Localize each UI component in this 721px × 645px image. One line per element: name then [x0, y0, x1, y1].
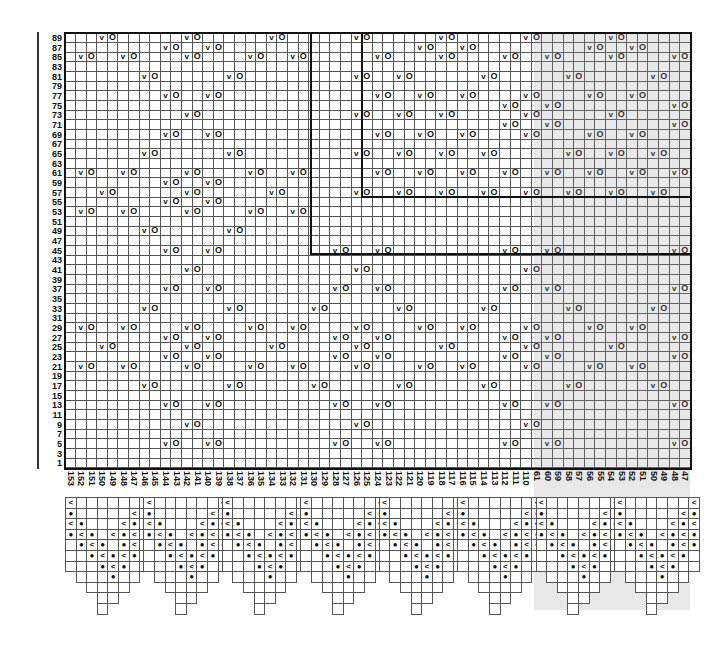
stitch-cell	[606, 458, 617, 468]
stitch-cell	[415, 217, 426, 227]
stitch-cell	[160, 236, 171, 246]
stitch-cell	[139, 313, 150, 323]
stitch-cell	[65, 333, 76, 343]
stitch-cell	[330, 420, 341, 430]
stitch-cell	[425, 439, 436, 449]
stitch-cell: O	[171, 333, 182, 343]
stitch-cell	[616, 304, 627, 314]
stitch-cell	[107, 43, 118, 53]
stitch-cell	[182, 429, 193, 439]
stitch-cell	[298, 149, 309, 159]
stitch-cell: v	[648, 381, 659, 391]
stitch-cell	[489, 323, 500, 333]
stitch-cell	[383, 139, 394, 149]
stitch-cell	[288, 410, 299, 420]
stitch-cell	[277, 139, 288, 149]
row-label: 39	[42, 275, 62, 285]
stitch-cell	[637, 226, 648, 236]
stitch-cell	[489, 81, 500, 91]
stitch-cell	[213, 72, 224, 82]
stitch-cell	[341, 313, 352, 323]
stitch-cell	[553, 72, 564, 82]
stitch-cell	[584, 333, 595, 343]
stitch-cell	[256, 342, 267, 352]
stitch-cell	[107, 439, 118, 449]
stitch-cell	[298, 72, 309, 82]
stitch-cell	[394, 420, 405, 430]
stitch-cell	[415, 159, 426, 169]
column-label: 152	[76, 471, 87, 495]
stitch-cell	[224, 110, 235, 120]
stitch-cell	[521, 439, 532, 449]
stitch-cell	[478, 255, 489, 265]
stitch-cell	[171, 139, 182, 149]
stitch-cell	[139, 81, 150, 91]
stitch-cell	[606, 168, 617, 178]
column-label: 133	[277, 471, 288, 495]
stitch-cell	[150, 120, 161, 130]
stitch-cell: O	[298, 323, 309, 333]
stitch-cell	[584, 458, 595, 468]
stitch-cell	[213, 458, 224, 468]
stitch-cell	[447, 275, 458, 285]
stitch-cell: O	[213, 284, 224, 294]
stitch-cell	[288, 72, 299, 82]
stitch-cell	[86, 429, 97, 439]
stitch-cell	[107, 391, 118, 401]
stitch-cell	[107, 110, 118, 120]
stitch-cell	[182, 91, 193, 101]
edging-cell	[107, 592, 119, 604]
stitch-cell	[245, 72, 256, 82]
stitch-cell	[425, 333, 436, 343]
stitch-cell: v	[330, 352, 341, 362]
stitch-cell	[266, 400, 277, 410]
stitch-cell	[404, 91, 415, 101]
stitch-cell	[76, 284, 87, 294]
stitch-cell: v	[500, 168, 511, 178]
stitch-cell	[659, 101, 670, 111]
stitch-cell	[648, 439, 659, 449]
stitch-cell	[680, 304, 691, 314]
stitch-cell	[637, 207, 648, 217]
column-label: 147	[129, 471, 140, 495]
row-label: 77	[42, 91, 62, 101]
stitch-cell	[478, 120, 489, 130]
stitch-cell	[319, 284, 330, 294]
stitch-cell: v	[542, 52, 553, 62]
stitch-cell	[404, 81, 415, 91]
stitch-cell	[669, 323, 680, 333]
stitch-cell	[256, 188, 267, 198]
stitch-cell	[383, 362, 394, 372]
stitch-cell	[118, 275, 129, 285]
stitch-cell	[118, 304, 129, 314]
stitch-cell	[542, 294, 553, 304]
stitch-cell	[425, 178, 436, 188]
stitch-cell: v	[542, 439, 553, 449]
stitch-cell	[648, 265, 659, 275]
stitch-cell: O	[489, 72, 500, 82]
stitch-cell	[330, 236, 341, 246]
stitch-cell	[447, 207, 458, 217]
stitch-cell	[531, 43, 542, 53]
stitch-cell	[118, 313, 129, 323]
stitch-cell	[129, 246, 140, 256]
stitch-cell	[478, 178, 489, 188]
stitch-cell	[118, 120, 129, 130]
stitch-cell	[319, 275, 330, 285]
stitch-cell	[319, 159, 330, 169]
stitch-cell	[298, 342, 309, 352]
stitch-cell	[213, 410, 224, 420]
row-label: 41	[42, 265, 62, 275]
stitch-cell	[298, 236, 309, 246]
stitch-cell	[86, 101, 97, 111]
stitch-cell	[606, 449, 617, 459]
stitch-cell	[256, 226, 267, 236]
stitch-cell	[330, 197, 341, 207]
stitch-cell	[213, 371, 224, 381]
stitch-cell	[394, 139, 405, 149]
stitch-cell	[341, 458, 352, 468]
stitch-cell	[415, 381, 426, 391]
column-label: 150	[97, 471, 108, 495]
stitch-cell	[266, 168, 277, 178]
stitch-cell	[160, 168, 171, 178]
